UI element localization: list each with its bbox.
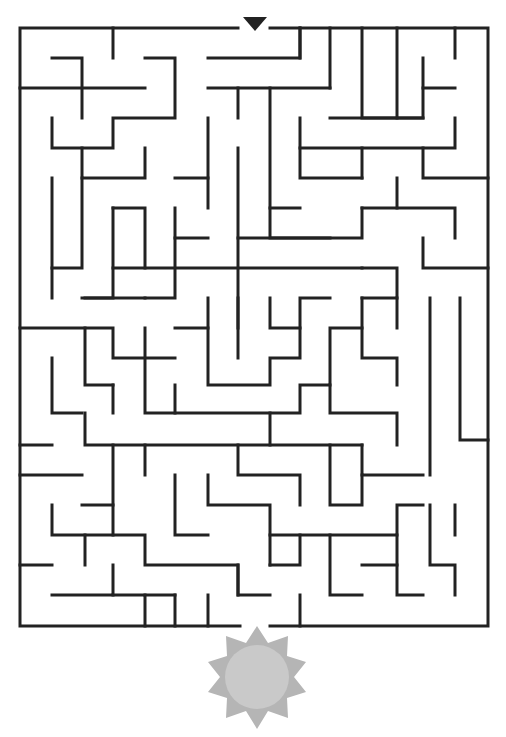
maze-board — [0, 0, 506, 737]
start-arrow-icon — [243, 17, 267, 31]
maze-walls — [20, 28, 488, 626]
sun-icon — [208, 626, 306, 729]
